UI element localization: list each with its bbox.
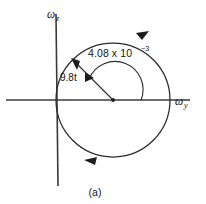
angle-arc-arrow-icon: [85, 72, 94, 82]
radius-magnitude-label: 4.08 x 10 −3: [88, 44, 149, 59]
radius-vector-line: [76, 63, 113, 100]
clockwise-arrow-bottom-icon: [84, 157, 97, 165]
clockwise-arrow-top-icon: [136, 31, 149, 40]
vertical-axis-label: ω z: [47, 8, 60, 23]
radius-vector-arrow-icon: [71, 58, 80, 70]
horizontal-axis-subscript: y: [183, 101, 188, 110]
angle-arc: [89, 61, 143, 100]
vertical-axis-symbol: ω: [47, 8, 55, 20]
horizontal-axis-label: ω y: [175, 95, 188, 110]
radius-magnitude-mantissa: 4.08 x 10: [88, 47, 132, 59]
figure-container: ω z ω y 4.08 x 10 −3 9.8t (a): [0, 0, 206, 204]
figure-caption: (a): [89, 186, 102, 198]
vertical-axis-subscript: z: [55, 14, 60, 23]
radius-magnitude-exponent: −3: [141, 44, 149, 53]
circle-center-dot: [111, 98, 115, 102]
angular-velocity-locus-diagram: ω z ω y 4.08 x 10 −3 9.8t (a): [0, 0, 206, 204]
angle-label: 9.8t: [60, 72, 77, 83]
horizontal-axis-symbol: ω: [175, 95, 183, 107]
